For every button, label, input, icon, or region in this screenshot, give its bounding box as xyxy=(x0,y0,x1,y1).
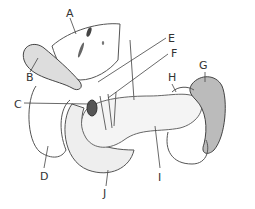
label-F: F xyxy=(171,48,177,59)
label-H: H xyxy=(168,72,176,83)
label-I: I xyxy=(158,172,161,183)
pancreas-shape xyxy=(82,94,202,147)
liver-spot xyxy=(102,41,104,45)
label-D: D xyxy=(40,171,48,182)
label-A: A xyxy=(66,8,74,19)
label-B: B xyxy=(26,72,34,83)
duodenum-outer xyxy=(29,86,70,157)
label-G: G xyxy=(199,60,208,71)
leader-A xyxy=(70,18,76,34)
label-E: E xyxy=(168,33,175,44)
anatomy-figure xyxy=(0,0,255,209)
leader-I xyxy=(155,126,160,168)
kidney-outline xyxy=(167,132,208,164)
portal-vein xyxy=(87,100,97,116)
label-J: J xyxy=(103,188,106,199)
label-C: C xyxy=(14,99,22,110)
